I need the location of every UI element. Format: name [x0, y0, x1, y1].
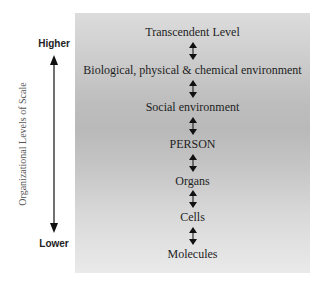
double-arrow-icon	[188, 80, 198, 98]
double-arrow-icon	[188, 154, 198, 172]
level-social-environment: Social environment	[75, 100, 310, 114]
level-biological-environment: Biological, physical & chemical environm…	[75, 63, 310, 77]
axis-title: Organizational Levels of Scale	[17, 82, 28, 205]
double-arrow-icon	[188, 227, 198, 245]
vertical-axis-arrow-icon	[49, 55, 59, 233]
level-cells: Cells	[75, 210, 310, 224]
double-arrow-icon	[188, 42, 198, 60]
axis-bottom-label: Lower	[39, 238, 68, 249]
axis-top-label: Higher	[38, 38, 70, 49]
level-transcendent: Transcendent Level	[75, 25, 310, 39]
level-molecules: Molecules	[75, 247, 310, 261]
levels-panel: Transcendent Level Biological, physical …	[75, 13, 310, 273]
double-arrow-icon	[188, 190, 198, 208]
level-person: PERSON	[75, 137, 310, 151]
level-organs: Organs	[75, 174, 310, 188]
double-arrow-icon	[188, 117, 198, 135]
